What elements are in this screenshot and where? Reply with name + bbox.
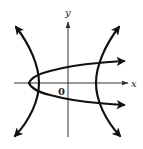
hyperbola-right-lower [96,83,120,136]
hyperbola-right-upper [96,27,119,83]
hyperbola-left-lower [15,83,39,136]
conic-sections-graph: x y 0 [0,0,143,149]
origin-label: 0 [58,86,65,97]
parabola-lower-arm [29,83,124,105]
y-axis-label: y [64,7,71,18]
parabola-upper-arm [29,61,124,83]
hyperbola-left-upper [16,27,39,83]
x-axis-label: x [131,78,137,89]
